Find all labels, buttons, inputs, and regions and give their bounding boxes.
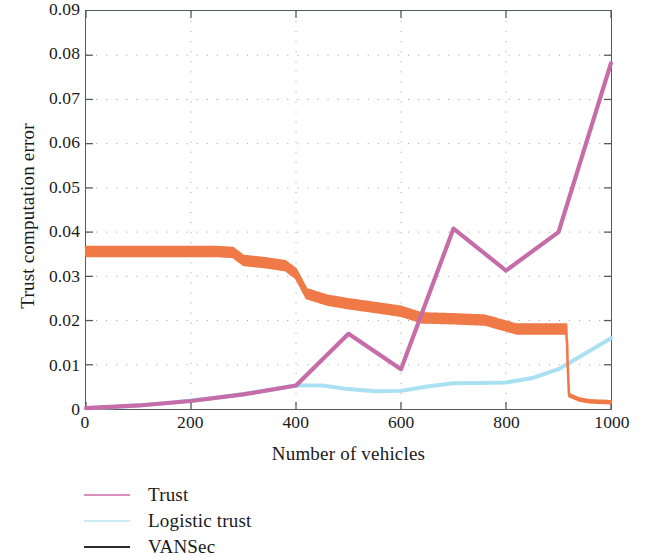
legend-swatch	[84, 520, 130, 522]
y-tick-label: 0	[6, 401, 80, 419]
x-tick-label: 800	[493, 414, 520, 432]
series-line-logistic-trust	[86, 338, 611, 408]
legend-item: Trust	[84, 482, 504, 508]
legend-label: VANSec	[148, 536, 215, 558]
x-tick-label: 0	[81, 414, 90, 432]
y-axis-tick-labels: 00.010.020.030.040.050.060.070.080.09	[0, 10, 80, 410]
y-tick-label: 0.08	[6, 46, 80, 64]
x-axis-title: Number of vehicles	[85, 443, 612, 465]
legend-item: Logistic trust	[84, 508, 504, 534]
legend-swatch	[84, 546, 130, 548]
x-tick-label: 600	[388, 414, 415, 432]
x-tick-label: 1000	[594, 414, 629, 432]
legend-label: Logistic trust	[148, 510, 252, 532]
data-series-layer	[86, 11, 611, 409]
x-axis-tick-labels: 02004006008001000	[85, 414, 612, 444]
x-tick-label: 200	[177, 414, 204, 432]
series-line-trust	[86, 63, 611, 408]
chart-legend: TrustLogistic trustVANSec	[84, 482, 504, 560]
y-tick-label: 0.01	[6, 357, 80, 375]
y-tick-label: 0.09	[6, 1, 80, 19]
figure-container: 00.010.020.030.040.050.060.070.080.09 Tr…	[0, 0, 657, 560]
legend-item: VANSec	[84, 534, 504, 560]
x-tick-label: 400	[283, 414, 310, 432]
legend-swatch	[84, 494, 130, 496]
plot-area	[85, 10, 612, 410]
y-axis-title: Trust computation error	[17, 96, 39, 336]
legend-label: Trust	[148, 484, 188, 506]
